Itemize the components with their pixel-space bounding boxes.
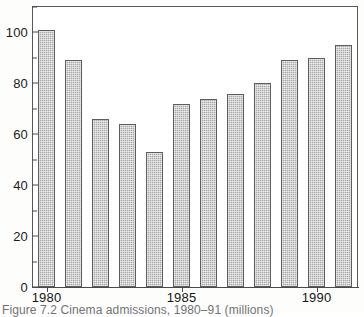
bar [65, 60, 82, 287]
x-axis-tick-label: 1990 [302, 290, 332, 305]
bar [92, 119, 109, 287]
bar [227, 94, 244, 287]
bar [146, 152, 163, 287]
bar [119, 124, 136, 287]
bar [173, 104, 190, 287]
bar [200, 99, 217, 287]
bar [254, 83, 271, 287]
y-axis-tick-label: 0 [0, 280, 28, 295]
bar-series [33, 7, 357, 287]
figure-caption: Figure 7.2 Cinema admissions, 1980–91 (m… [2, 303, 274, 317]
y-axis-tick-label: 80 [0, 76, 28, 91]
x-axis-line [32, 287, 359, 288]
y-axis-tick-label: 60 [0, 127, 28, 142]
bar [38, 30, 55, 287]
bar [335, 45, 352, 287]
bar [281, 60, 298, 287]
bar [308, 58, 325, 287]
y-axis-tick-label: 100 [0, 25, 28, 40]
y-axis-tick-label: 40 [0, 178, 28, 193]
y-axis-tick-label: 20 [0, 229, 28, 244]
